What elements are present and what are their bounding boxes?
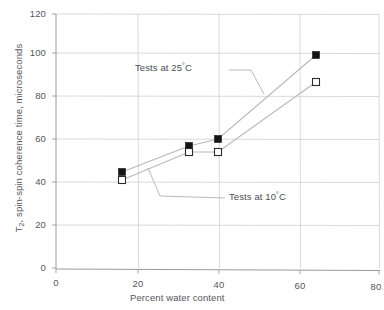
gridline-y-120 (56, 14, 379, 15)
gridline-x-20 (138, 14, 139, 268)
leader-line-25c (229, 70, 264, 94)
data-point-25c-4 (313, 52, 320, 59)
y-axis-title-wrapper: T2, spin-spin coherence time, microsecon… (8, 18, 24, 258)
annotation-10c-suffix: C (279, 191, 286, 202)
data-point-10c-1 (119, 177, 126, 184)
y-axis-title-subscript: 2 (18, 222, 25, 226)
annotation-10c-prefix: Tests at 10 (229, 191, 276, 202)
grid-vertical (138, 14, 380, 268)
x-tick-label-20: 20 (124, 278, 152, 289)
x-tick-label-60: 60 (286, 280, 314, 291)
x-axis-title: Percent water content (130, 292, 225, 303)
annotation-10c-degree: ° (276, 191, 279, 198)
gridline-y-100 (56, 53, 379, 54)
data-point-10c-2 (186, 149, 193, 156)
data-point-25c-1 (119, 169, 126, 176)
data-point-10c-4 (313, 79, 320, 86)
annotation-25c-suffix: C (185, 62, 192, 73)
grid-horizontal (56, 14, 379, 226)
x-tick-label-0: 0 (42, 277, 70, 288)
y-tick-marks (52, 14, 56, 268)
annotation-tests-at-25c: Tests at 25°C (135, 62, 192, 73)
y-axis-title-symbol: T (13, 226, 24, 232)
annotation-tests-at-10c: Tests at 10°C (229, 191, 286, 202)
x-tick-label-40: 40 (205, 279, 233, 290)
gridline-x-80 (379, 14, 380, 268)
x-axis-line (56, 269, 380, 271)
data-point-25c-3 (215, 136, 222, 143)
y-tick-label-0: 0 (8, 262, 46, 273)
annotation-25c-prefix: Tests at 25 (135, 62, 182, 73)
x-tick-label-80: 80 (364, 281, 384, 292)
annotation-25c-degree: ° (182, 62, 185, 69)
gridline-y-20 (56, 225, 379, 226)
gridline-y-80 (56, 96, 379, 97)
leader-line-10c (148, 168, 225, 198)
gridline-x-60 (300, 14, 301, 268)
chart-plot-area (0, 0, 384, 310)
data-point-10c-3 (215, 149, 222, 156)
y-axis-title-rest: , spin-spin coherence time, microseconds (13, 44, 24, 223)
gridline-y-40 (56, 182, 379, 183)
chart-figure: 120 100 80 60 40 20 0 0 20 40 60 80 Perc… (0, 0, 384, 310)
y-axis-title: T2, spin-spin coherence time, microsecon… (13, 44, 24, 233)
